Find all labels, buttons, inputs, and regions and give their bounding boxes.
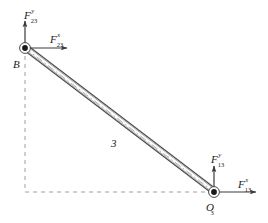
force-label-F13y-base: F <box>211 153 218 165</box>
link-3-body <box>23 44 216 193</box>
link-edge-upper <box>26 44 215 188</box>
force-label-F13x-base: F <box>238 178 245 190</box>
force-label-F23y: Fy23 <box>24 6 37 22</box>
joint-label-O3: O3 <box>206 198 214 214</box>
force-label-F13x-superscript: x <box>245 176 248 183</box>
link-centerline <box>25 48 214 192</box>
link-edge-lower <box>23 49 212 193</box>
pin-joint-O3-icon <box>209 187 220 198</box>
force-label-F13y-subscript: 13 <box>218 161 225 168</box>
diagram-canvas <box>0 0 268 223</box>
force-label-F23y-superscript: y <box>31 7 34 14</box>
free-body-diagram: Fy23 Fx23 Fy13 Fx13 B O3 3 <box>0 0 268 223</box>
force-label-F23y-base: F <box>24 9 31 21</box>
force-label-F13y-superscript: y <box>218 151 221 158</box>
link-edge-inner-lower <box>23 48 212 192</box>
joint-label-B: B <box>13 55 20 71</box>
force-label-F13y: Fy13 <box>211 150 224 166</box>
link-number-label: 3 <box>111 134 117 150</box>
force-label-F13x: Fx13 <box>238 175 251 191</box>
construction-lines <box>25 56 206 192</box>
force-label-F23y-subscript: 23 <box>31 17 38 24</box>
force-label-F13x-subscript: 13 <box>245 186 252 193</box>
joint-label-B-text: B <box>13 58 20 70</box>
pin-joint-B-icon <box>20 43 31 54</box>
joint-label-O3-subscript: 3 <box>210 209 213 216</box>
force-label-F23x-superscript: x <box>57 31 60 38</box>
force-label-F23x: Fx23 <box>50 30 63 46</box>
link-edge-inner-upper <box>25 45 214 189</box>
link-number-label-text: 3 <box>111 137 117 149</box>
force-label-F23x-subscript: 23 <box>57 41 64 48</box>
force-label-F23x-base: F <box>50 33 57 45</box>
